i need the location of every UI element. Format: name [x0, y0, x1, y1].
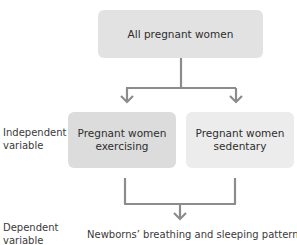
dependent-variable-label: Dependent variable	[3, 221, 58, 245]
sedentary-label-line2: sedentary	[196, 140, 285, 153]
outcome-text: Newborns’ breathing and sleeping pattern…	[87, 229, 297, 240]
outcome-label: Newborns’ breathing and sleeping pattern…	[87, 228, 297, 241]
independent-line2: variable	[3, 139, 66, 152]
independent-line1: Independent	[3, 126, 66, 139]
exercising-label-line2: exercising	[78, 140, 167, 153]
sedentary-label-line1: Pregnant women	[196, 127, 285, 140]
dependent-line2: variable	[3, 234, 58, 245]
top-box: All pregnant women	[98, 10, 263, 58]
exercising-box: Pregnant women exercising	[68, 112, 176, 168]
independent-variable-label: Independent variable	[3, 126, 66, 152]
top-box-label: All pregnant women	[128, 28, 234, 41]
dependent-line1: Dependent	[3, 221, 58, 234]
exercising-label-line1: Pregnant women	[78, 127, 167, 140]
sedentary-box: Pregnant women sedentary	[186, 112, 294, 168]
